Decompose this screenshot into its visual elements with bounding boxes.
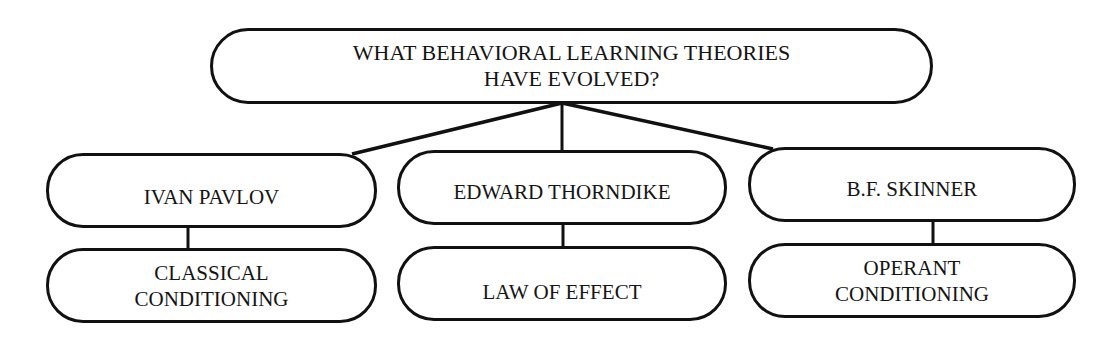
theorist-label: B.F. SKINNER (847, 177, 978, 202)
theory-label-line2: CONDITIONING (135, 287, 289, 312)
theory-node-law-of-effect: LAW OF EFFECT (397, 246, 727, 321)
theory-label-line1: CLASSICAL (154, 261, 268, 286)
theorist-node-thorndike: EDWARD THORNDIKE (397, 150, 727, 225)
connector-root-pavlov (352, 103, 562, 154)
root-question-line1: WHAT BEHAVIORAL LEARNING THEORIES (353, 40, 790, 66)
connector-root-skinner (562, 103, 773, 149)
theory-label-line1: LAW OF EFFECT (483, 280, 642, 305)
root-question-node: WHAT BEHAVIORAL LEARNING THEORIES HAVE E… (210, 28, 933, 104)
theorist-node-skinner: B.F. SKINNER (748, 147, 1076, 222)
theory-label-line2: CONDITIONING (835, 282, 989, 307)
theory-node-classical-conditioning: CLASSICAL CONDITIONING (46, 248, 377, 323)
theory-node-operant-conditioning: OPERANT CONDITIONING (748, 243, 1076, 318)
theorist-label: IVAN PAVLOV (144, 185, 280, 210)
diagram-canvas: WHAT BEHAVIORAL LEARNING THEORIES HAVE E… (0, 0, 1116, 348)
theory-label-line1: OPERANT (864, 256, 961, 281)
theorist-node-pavlov: IVAN PAVLOV (46, 153, 377, 228)
theorist-label: EDWARD THORNDIKE (453, 180, 670, 205)
root-question-line2: HAVE EVOLVED? (484, 66, 659, 92)
